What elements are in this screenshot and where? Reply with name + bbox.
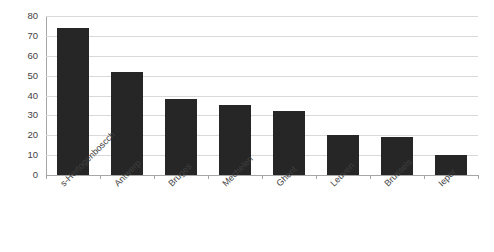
y-axis-tick-label: 20 [12,131,38,141]
x-axis-tick [262,175,263,179]
x-axis-tick [316,175,317,179]
gridline [46,16,478,17]
bar-chart: 01020304050607080 s-HertogenboscchAntwer… [0,0,494,252]
gridline [46,36,478,37]
gridline [46,56,478,57]
x-axis-tick [46,175,47,179]
bar [165,99,197,175]
y-axis-tick-label: 0 [12,170,38,180]
x-axis-tick [154,175,155,179]
y-axis-tick-label: 80 [12,11,38,21]
x-axis-tick [478,175,479,179]
y-axis-tick-label: 30 [12,111,38,121]
y-axis-tick-label: 60 [12,51,38,61]
x-axis-tick [370,175,371,179]
x-axis-tick [208,175,209,179]
bar [57,28,89,175]
y-axis-tick-label: 70 [12,31,38,41]
x-axis-tick [100,175,101,179]
plot-area [46,16,478,175]
y-axis-tick-label: 10 [12,150,38,160]
x-axis-tick [424,175,425,179]
y-axis-tick-label: 50 [12,71,38,81]
y-axis-tick-label: 40 [12,91,38,101]
